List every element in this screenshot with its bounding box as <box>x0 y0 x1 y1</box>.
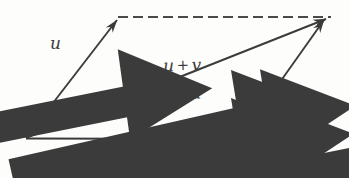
vector-label-u-left: u <box>50 28 61 52</box>
vector-parallelogram-figure: u u v u + <box>0 0 349 178</box>
vector-label-sum-u-plus-v: u + v <box>163 49 202 74</box>
vector-arrow-accent-icon <box>15 73 349 178</box>
vector-label-sum-v-plus-u: v + u <box>163 77 202 102</box>
